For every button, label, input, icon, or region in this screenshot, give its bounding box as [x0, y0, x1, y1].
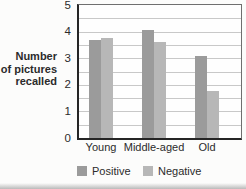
y-tick-label-2: 2	[50, 77, 71, 91]
bar-young-positive	[89, 40, 101, 138]
scan-shadow	[0, 183, 246, 189]
y-tick-label-4: 4	[50, 24, 71, 38]
bar-middle-aged-positive	[142, 30, 154, 138]
plot-area	[77, 4, 242, 140]
legend-swatch-positive	[77, 166, 87, 176]
y-tick-label-5: 5	[50, 0, 71, 12]
gridline	[79, 18, 241, 19]
bar-chart-figure: Number of pictures recalled 012345 Young…	[0, 0, 246, 189]
x-tick-label-old: Old	[167, 141, 246, 153]
bar-old-negative	[207, 91, 219, 138]
legend: PositiveNegative	[0, 165, 246, 179]
y-axis-ticks: 012345	[0, 0, 72, 150]
bar-middle-aged-negative	[154, 42, 166, 138]
legend-item-negative: Negative	[143, 165, 201, 177]
legend-label-negative: Negative	[158, 165, 201, 177]
legend-label-positive: Positive	[92, 165, 131, 177]
y-tick-label-1: 1	[50, 104, 71, 118]
y-tick-label-3: 3	[50, 51, 71, 65]
bar-young-negative	[101, 38, 113, 138]
bar-old-positive	[195, 56, 207, 138]
legend-swatch-negative	[143, 166, 153, 176]
legend-item-positive: Positive	[77, 165, 131, 177]
gridline	[79, 32, 241, 33]
x-axis-labels: YoungMiddle-agedOld	[0, 141, 246, 154]
